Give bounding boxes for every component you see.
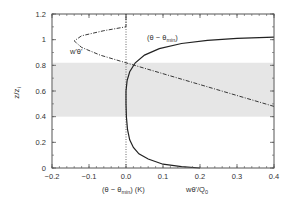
y-tick-label: 0.4 xyxy=(36,112,46,121)
x-tick-label: −0.1 xyxy=(82,172,97,181)
x-tick-label: 0.0 xyxy=(121,172,131,181)
shaded-band-rect xyxy=(53,63,274,117)
series-label-flux: w'θ' xyxy=(69,47,83,56)
x-axis-label-right: wθ'/Q0 xyxy=(185,185,208,195)
x-tick-label: 0.3 xyxy=(232,172,242,181)
y-tick-label: 1 xyxy=(42,35,46,44)
y-tick-label: 0.6 xyxy=(36,87,46,96)
x-tick-label: −0.2 xyxy=(45,172,60,181)
y-tick-label: 0 xyxy=(42,164,46,173)
y-tick-label: 0.2 xyxy=(36,138,46,147)
y-tick-label: 0.8 xyxy=(36,61,46,70)
x-tick-label: 0.1 xyxy=(158,172,168,181)
x-axis-label-left: (θ − θmin) (K) xyxy=(102,185,145,195)
series-label-theta: (θ − θmin) xyxy=(147,33,178,43)
shaded-band xyxy=(53,63,274,117)
x-tick-label: 0.4 xyxy=(269,172,279,181)
y-tick-label: 1.2 xyxy=(36,10,46,19)
chart: −0.2−0.10.00.10.20.30.400.20.40.60.811.2… xyxy=(0,0,293,201)
x-tick-label: 0.2 xyxy=(195,172,205,181)
y-axis-label: z/zi xyxy=(12,87,22,99)
chart-canvas: −0.2−0.10.00.10.20.30.400.20.40.60.811.2… xyxy=(0,0,293,201)
